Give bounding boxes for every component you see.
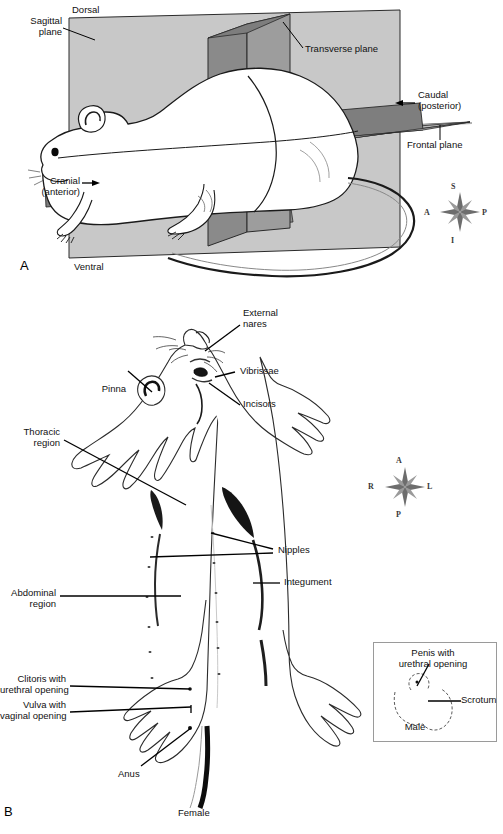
leader-vibrissae bbox=[215, 372, 235, 377]
label-integument: Integument bbox=[284, 577, 332, 588]
label-female: Female bbox=[178, 808, 210, 819]
label-male-caption: Male bbox=[390, 722, 440, 733]
label-incisors: Incisors bbox=[243, 399, 276, 410]
leader-nipples-upper bbox=[211, 533, 273, 549]
leader-vulva bbox=[70, 707, 191, 712]
label-external-nares: External nares bbox=[243, 308, 278, 329]
compass-b-east: L bbox=[427, 482, 441, 491]
label-clitoris: Clitoris with urethral opening bbox=[0, 674, 66, 695]
label-abdominal-region: Abdominal region bbox=[0, 588, 56, 609]
label-scrotum: Scrotum bbox=[461, 695, 496, 706]
leader-pinna bbox=[128, 371, 152, 392]
panel-b: External nares Vibrissae Incisors Pinna … bbox=[0, 0, 503, 834]
label-pinna: Pinna bbox=[60, 384, 126, 395]
label-vibrissae: Vibrissae bbox=[240, 366, 279, 377]
leader-nipples-lower bbox=[150, 553, 273, 557]
label-penis: Penis with urethral opening bbox=[378, 648, 488, 669]
leader-anus bbox=[141, 728, 191, 766]
panel-b-letter: B bbox=[4, 804, 13, 819]
leader-clitoris bbox=[70, 686, 190, 689]
label-anus: Anus bbox=[118, 769, 140, 780]
leader-thoracic-region bbox=[64, 440, 186, 505]
compass-b-west: R bbox=[368, 482, 382, 491]
label-vulva: Vulva with vaginal opening bbox=[0, 700, 66, 721]
leader-incisors bbox=[209, 383, 240, 405]
label-nipples: Nipples bbox=[278, 545, 310, 556]
leader-external-nares bbox=[205, 325, 240, 351]
compass-b-south: P bbox=[396, 510, 414, 519]
label-thoracic-region: Thoracic region bbox=[0, 427, 60, 448]
compass-b-north: A bbox=[396, 456, 414, 465]
